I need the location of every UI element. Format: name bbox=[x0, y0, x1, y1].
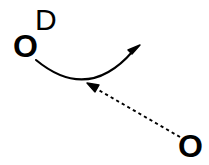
diagram-canvas: O D O bbox=[0, 0, 209, 165]
curved-arrow-head-icon bbox=[128, 45, 140, 54]
atom-label-oxygen-right: O bbox=[178, 130, 203, 162]
dashed-arrow-head-icon bbox=[87, 83, 99, 92]
label-d: D bbox=[35, 5, 57, 35]
dashed-arrow bbox=[95, 88, 180, 137]
curved-arrow bbox=[36, 51, 133, 79]
